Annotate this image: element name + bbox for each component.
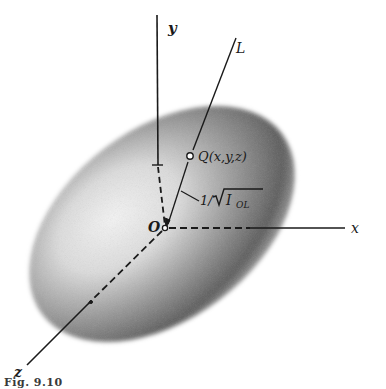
distance-var: I — [225, 192, 232, 208]
distance-prefix: 1/ — [200, 193, 214, 208]
x-axis-label: x — [351, 220, 359, 236]
distance-sub: OL — [236, 200, 249, 210]
point-Q-label: Q(x,y,z) — [198, 149, 247, 164]
origin-point — [162, 225, 167, 230]
figure-caption: Fig. 9.10 — [4, 376, 63, 389]
point-Q — [187, 153, 193, 159]
origin-label: O — [148, 219, 161, 235]
y-axis-label: y — [167, 19, 178, 37]
L-label: L — [235, 40, 245, 56]
